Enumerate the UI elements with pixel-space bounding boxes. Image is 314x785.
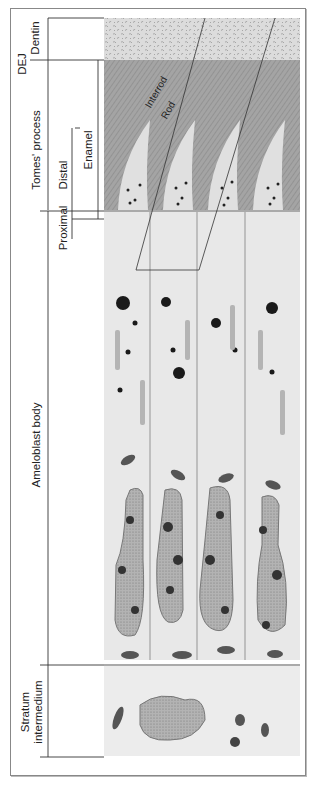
dentin-layer: [104, 18, 300, 60]
ameloblast-illustration: [0, 0, 314, 785]
label-ameloblast-body: Ameloblast body: [30, 402, 42, 487]
label-tomes-process: Tomes' process: [30, 110, 42, 190]
label-dentin: Dentin: [29, 21, 41, 54]
label-enamel: Enamel: [82, 131, 94, 170]
label-dej: DEJ: [16, 53, 28, 75]
label-proximal: Proximal: [57, 206, 69, 251]
label-stratum-intermedium: Stratum intermedium: [19, 680, 45, 743]
label-distal: Distal: [57, 161, 69, 190]
